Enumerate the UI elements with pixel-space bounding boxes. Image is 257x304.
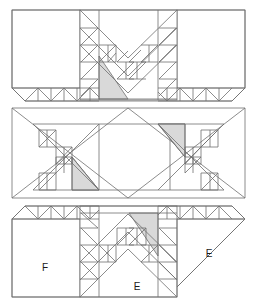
top-left-field — [12, 10, 80, 88]
panel-middle — [12, 108, 245, 198]
middle-right-x — [158, 124, 224, 190]
panel-top — [12, 10, 245, 101]
label-E-center: E — [134, 281, 141, 292]
panel-bottom: F E E — [12, 206, 245, 297]
quilt-diagram-svg: F E E — [0, 0, 257, 304]
label-F-left: F — [42, 262, 48, 273]
middle-left-x — [33, 124, 99, 190]
diagram-canvas: F E E — [0, 0, 257, 304]
top-center-frame — [80, 10, 177, 100]
label-E-right: E — [206, 248, 213, 259]
bottom-center-frame — [80, 206, 177, 297]
top-right-field — [177, 10, 245, 88]
bottom-left-field-F — [12, 219, 80, 297]
